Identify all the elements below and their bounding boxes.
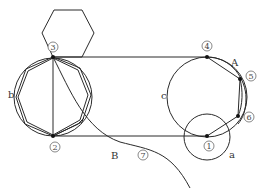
label-point-1: 1 [204,141,214,151]
label-B: B [111,150,118,161]
diagram-canvas: 3 2 4 5 6 1 7 b c a A B [0,0,262,188]
arc-A-outer [207,57,246,124]
point-3-dot [51,55,55,59]
svg-text:4: 4 [204,42,209,51]
svg-text:5: 5 [248,72,253,81]
label-point-3: 3 [48,42,58,52]
point-4-dot [205,55,209,59]
label-point-6: 6 [244,112,254,122]
label-point-2: 2 [50,142,60,152]
label-point-5: 5 [246,71,256,81]
construction-diagram: 3 2 4 5 6 1 7 b c a A B [0,0,262,188]
point-5-dot [238,77,242,81]
svg-text:1: 1 [206,142,211,151]
label-a: a [229,149,235,160]
point-2-dot [51,134,55,138]
label-point-7: 7 [138,150,148,160]
point-6-dot [236,114,240,118]
label-c: c [161,90,167,101]
label-b: b [8,89,14,100]
curve-B [53,57,190,188]
svg-text:6: 6 [246,113,251,122]
point-1-dot [205,134,209,138]
svg-text:3: 3 [50,43,55,52]
svg-text:7: 7 [140,151,145,160]
label-point-4: 4 [202,41,212,51]
svg-text:2: 2 [52,143,57,152]
label-A: A [230,57,239,68]
